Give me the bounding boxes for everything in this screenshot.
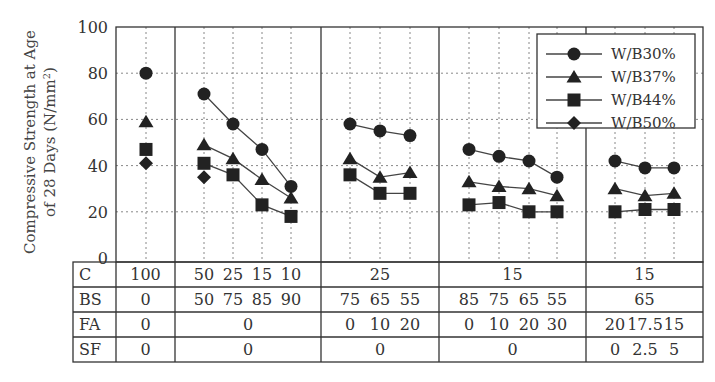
table-cell: 20 <box>605 315 625 334</box>
square-marker-icon <box>404 187 417 200</box>
table-cell: 65 <box>370 290 390 309</box>
square-marker-icon <box>639 203 652 216</box>
square-marker-icon <box>609 205 622 218</box>
triangle-marker-icon <box>403 166 418 179</box>
triangle-marker-icon <box>255 172 270 185</box>
circle-marker-icon <box>140 67 153 80</box>
circle-marker-icon <box>523 154 536 167</box>
table-cell: 0 <box>140 340 150 359</box>
table-cell: 30 <box>547 315 567 334</box>
table-cell: 0 <box>140 315 150 334</box>
circle-marker-icon <box>551 171 564 184</box>
table-cell: 100 <box>130 265 161 284</box>
square-marker-icon <box>374 187 387 200</box>
table-cell: 0 <box>464 315 474 334</box>
square-marker-icon <box>140 143 153 156</box>
y-axis-title-line-2: of 28 Days (N/mm2) <box>41 67 60 217</box>
circle-marker-icon <box>374 124 387 137</box>
table-cell: 15 <box>634 265 654 284</box>
legend-label: W/B37% <box>611 68 676 86</box>
table-cell: 85 <box>252 290 272 309</box>
circle-marker-icon <box>609 154 622 167</box>
y-axis-ticks: 020406080100 <box>77 18 108 268</box>
square-marker-icon <box>227 168 240 181</box>
circle-marker-icon <box>493 150 506 163</box>
table-cell: 2.5 <box>632 340 657 359</box>
table-row-label-bs: BS <box>79 290 102 309</box>
square-marker-icon <box>668 203 681 216</box>
table-cell: 0 <box>140 290 150 309</box>
circle-marker-icon <box>568 48 581 61</box>
square-marker-icon <box>463 198 476 211</box>
table-cell: 15 <box>664 315 684 334</box>
square-marker-icon <box>344 168 357 181</box>
circle-marker-icon <box>668 161 681 174</box>
table-cell: 0 <box>243 340 253 359</box>
table-cell: 15 <box>502 265 522 284</box>
mix-proportion-table: C10050251510251515BS05075859075655585756… <box>73 262 703 362</box>
square-marker-icon <box>493 196 506 209</box>
table-cell: 10 <box>281 265 301 284</box>
table-row-label-fa: FA <box>79 315 101 334</box>
circle-marker-icon <box>404 129 417 142</box>
square-marker-icon <box>523 205 536 218</box>
table-cell: 0 <box>507 340 517 359</box>
compressive-strength-chart: Compressive Strength at Ageof 28 Days (N… <box>0 0 715 382</box>
table-cell: 0 <box>345 315 355 334</box>
table-cell: 90 <box>281 290 301 309</box>
y-tick-label: 100 <box>77 18 108 37</box>
table-cell: 75 <box>340 290 360 309</box>
table-cell: 25 <box>370 265 390 284</box>
table-cell: 0 <box>243 315 253 334</box>
table-cell: 10 <box>370 315 390 334</box>
table-cell: 20 <box>400 315 420 334</box>
diamond-marker-icon <box>197 170 211 184</box>
triangle-marker-icon <box>139 115 154 128</box>
circle-marker-icon <box>344 118 357 131</box>
y-tick-label: 0 <box>98 249 108 268</box>
table-cell: 85 <box>459 290 479 309</box>
y-tick-label: 40 <box>88 157 108 176</box>
table-cell: 55 <box>400 290 420 309</box>
table-cell: 17.5 <box>627 315 663 334</box>
square-marker-icon <box>568 94 581 107</box>
y-tick-label: 60 <box>88 110 108 129</box>
circle-marker-icon <box>256 143 269 156</box>
square-marker-icon <box>551 205 564 218</box>
table-row-label-sf: SF <box>79 340 101 359</box>
table-cell: 5 <box>669 340 679 359</box>
table-cell: 20 <box>519 315 539 334</box>
table-cell: 75 <box>489 290 509 309</box>
y-tick-label: 20 <box>88 203 108 222</box>
y-axis-label: Compressive Strength at Ageof 28 Days (N… <box>21 30 59 254</box>
table-cell: 75 <box>223 290 243 309</box>
table-cell: 50 <box>194 290 214 309</box>
triangle-marker-icon <box>343 152 358 165</box>
table-cell: 15 <box>252 265 272 284</box>
square-marker-icon <box>256 198 269 211</box>
table-cell: 0 <box>610 340 620 359</box>
legend: W/B30%W/B37%W/B44%W/B50% <box>537 34 695 132</box>
legend-label: W/B44% <box>611 91 676 109</box>
triangle-marker-icon <box>226 152 241 165</box>
table-cell: 65 <box>634 290 654 309</box>
square-marker-icon <box>285 210 298 223</box>
circle-marker-icon <box>639 161 652 174</box>
triangle-marker-icon <box>667 186 682 199</box>
y-axis-title-line-1: Compressive Strength at Age <box>21 30 39 254</box>
table-row-label-c: C <box>79 265 91 284</box>
legend-label: W/B30% <box>611 45 676 63</box>
table-cell: 25 <box>223 265 243 284</box>
circle-marker-icon <box>198 87 211 100</box>
triangle-marker-icon <box>608 182 623 195</box>
table-cell: 50 <box>194 265 214 284</box>
square-marker-icon <box>198 157 211 170</box>
table-cell: 65 <box>519 290 539 309</box>
table-cell: 55 <box>547 290 567 309</box>
diamond-marker-icon <box>139 156 153 170</box>
legend-label: W/B50% <box>611 114 676 132</box>
circle-marker-icon <box>227 118 240 131</box>
circle-marker-icon <box>463 143 476 156</box>
y-tick-label: 80 <box>88 64 108 83</box>
triangle-marker-icon <box>462 175 477 188</box>
